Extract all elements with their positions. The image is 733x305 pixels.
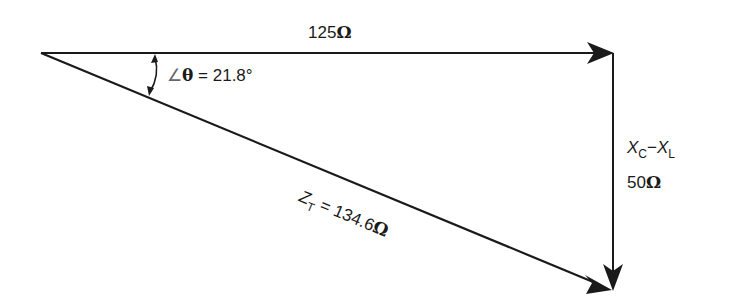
angle-arc bbox=[150, 58, 157, 92]
ohm-symbol: Ω bbox=[646, 172, 661, 192]
angle-arc-arrow-top bbox=[151, 54, 158, 63]
resistance-value: 125 bbox=[308, 23, 336, 42]
subscript-l: L bbox=[668, 147, 675, 161]
theta-symbol: θ bbox=[182, 65, 193, 85]
resistance-label: 125Ω bbox=[308, 22, 352, 43]
reactance-label: XC−XL bbox=[627, 138, 675, 158]
impedance-triangle-diagram bbox=[0, 0, 733, 305]
angle-label: ∠θ = 21.8° bbox=[167, 65, 253, 86]
angle-icon: ∠ bbox=[167, 66, 182, 85]
ohm-symbol: Ω bbox=[336, 22, 351, 42]
angle-value: = 21.8° bbox=[193, 66, 252, 85]
reactance-value-label: 50Ω bbox=[627, 172, 661, 193]
reactance-value: 50 bbox=[627, 173, 646, 192]
impedance-arrowhead bbox=[585, 275, 612, 294]
minus-sign: − bbox=[647, 138, 657, 157]
reactance-symbol-c: X bbox=[627, 138, 638, 157]
impedance-vector bbox=[41, 53, 598, 284]
subscript-c: C bbox=[638, 147, 647, 161]
reactance-symbol-l: X bbox=[657, 138, 668, 157]
